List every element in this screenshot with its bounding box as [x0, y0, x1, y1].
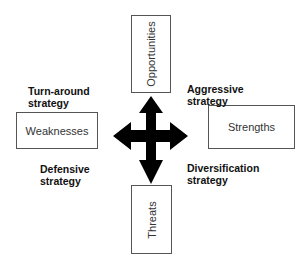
four-way-arrow-icon [0, 0, 307, 268]
